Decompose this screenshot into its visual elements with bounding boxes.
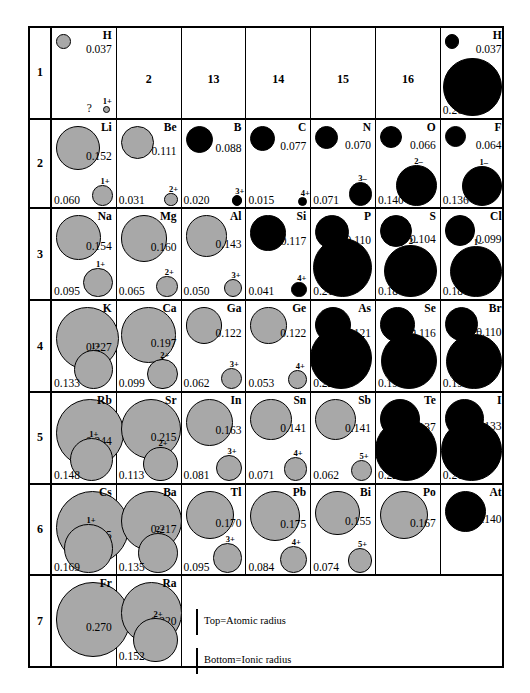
element-cell-Al[interactable]: Al0.1433+0.050 [182, 209, 247, 299]
ionic-charge-label: 5+ [358, 539, 367, 549]
element-cell-Bi[interactable]: Bi0.1555+0.074 [311, 485, 376, 575]
element-cell-Pb[interactable]: Pb0.1754+0.084 [246, 485, 311, 575]
ionic-radius-value: 0.020 [184, 194, 210, 206]
ionic-radius-value: 0.084 [248, 561, 274, 573]
atomic-radius-circle [315, 491, 360, 536]
ionic-charge-label: 2– [409, 236, 418, 246]
element-symbol: Li [101, 121, 112, 133]
element-cell-Sn[interactable]: Sn0.1414+0.071 [246, 393, 311, 483]
element-cell-Be[interactable]: Be0.1112+0.031 [117, 120, 182, 208]
element-cell-Cs[interactable]: Cs0.2651+0.169 [52, 485, 117, 575]
ionic-radius-value: 0.071 [313, 194, 339, 206]
element-cell-Te[interactable]: Te0.1372–0.221 [376, 393, 441, 483]
element-cell-Ra[interactable]: Ra0.2202+0.152 [117, 576, 182, 666]
element-cell-Sb[interactable]: Sb0.1415+0.062 [311, 393, 376, 483]
ionic-charge-label: 3+ [235, 186, 244, 196]
element-cell-F[interactable]: F0.0641–0.136 [441, 120, 506, 208]
element-cell-C[interactable]: C0.0774+0.015 [246, 120, 311, 208]
ionic-radius-value: 0.050 [184, 285, 210, 297]
period-number-5: 5 [30, 393, 52, 483]
ionic-charge-label: 2– [407, 324, 416, 334]
element-symbol: K [103, 302, 112, 314]
atomic-radius-value: 0.143 [216, 238, 242, 250]
ionic-charge-label: 2+ [160, 350, 169, 360]
ionic-charge-label: 1– [472, 325, 481, 335]
element-cell-In[interactable]: In0.1633+0.081 [182, 393, 247, 483]
element-cell-P[interactable]: P0.1103–0.212 [311, 209, 376, 299]
ionic-radius-value: 0.140 [378, 194, 404, 206]
group-header-cell-14: 14 [246, 28, 311, 118]
element-cell-Tl[interactable]: Tl0.1703+0.095 [182, 485, 247, 575]
element-cell-Ba[interactable]: Ba0.2172+0.135 [117, 485, 182, 575]
element-cell-Na[interactable]: Na0.1541+0.095 [52, 209, 117, 299]
ionic-charge-label: 2+ [154, 609, 163, 619]
ionic-charge-label: 4+ [297, 273, 306, 283]
ionic-radius-value: 0.169 [54, 561, 80, 573]
element-cell-Po[interactable]: Po0.167 [376, 485, 441, 575]
element-cell-Ge[interactable]: Ge0.1224+0.053 [246, 301, 311, 391]
atomic-radius-value: 0.163 [216, 424, 242, 436]
element-cell-Si[interactable]: Si0.1174+0.041 [246, 209, 311, 299]
group-header-cell-15: 15 [311, 28, 376, 118]
element-cell-Fr[interactable]: Fr0.270 [52, 576, 117, 666]
element-cell-Cl[interactable]: Cl0.0991–0.181 [441, 209, 506, 299]
element-symbol: I [497, 394, 501, 406]
atomic-radius-circle [56, 34, 71, 49]
ionic-radius-circle [284, 457, 307, 480]
group-header-cell-13: 13 [182, 28, 247, 118]
element-cell-Li[interactable]: Li0.1521+0.060 [52, 120, 117, 208]
atomic-radius-value: 0.155 [345, 515, 371, 527]
element-cell-Mg[interactable]: Mg0.1602+0.065 [117, 209, 182, 299]
element-cell-Ca[interactable]: Ca0.1972+0.099 [117, 301, 182, 391]
ionic-radius-value: 0.198 [378, 377, 404, 389]
element-symbol: F [495, 121, 502, 133]
atomic-radius-value: 0.122 [216, 327, 242, 339]
element-cell-O[interactable]: O0.0662–0.140 [376, 120, 441, 208]
ionic-radius-circle [280, 546, 307, 573]
element-cell-Br[interactable]: Br0.1101–0.195 [441, 301, 506, 391]
atomic-radius-value: 0.141 [345, 422, 371, 434]
ionic-radius-value: 0.071 [248, 469, 274, 481]
element-cell-As[interactable]: As0.1213–0.222 [311, 301, 376, 391]
ionic-charge-label: 3– [358, 173, 367, 183]
element-symbol: Na [98, 210, 112, 222]
ionic-radius-value: 0.208 [443, 104, 469, 116]
period-number-6: 6 [30, 485, 52, 575]
element-symbol: Po [423, 486, 436, 498]
atomic-radius-value: 0.167 [410, 517, 436, 529]
ionic-radius-value: 0.062 [184, 377, 210, 389]
element-cell-Sr[interactable]: Sr0.2152+0.113 [117, 393, 182, 483]
element-cell-H[interactable]: H0.0371+? [52, 28, 117, 118]
element-cell-H[interactable]: H0.0370.208 [441, 28, 506, 118]
ionic-charge-label: 2+ [165, 267, 174, 277]
atomic-radius-value: 0.152 [86, 150, 112, 162]
element-symbol: Cs [99, 486, 112, 498]
atomic-radius-circle [186, 215, 228, 257]
element-cell-K[interactable]: K0.2271+0.133 [52, 301, 117, 391]
period-number-2: 2 [30, 120, 52, 208]
element-cell-Rb[interactable]: Rb0.2441+0.148 [52, 393, 117, 483]
ionic-radius-circle [298, 197, 307, 206]
atomic-radius-value: 0.140 [476, 513, 502, 525]
element-cell-Se[interactable]: Se0.1162–0.198 [376, 301, 441, 391]
atomic-radius-circle [445, 491, 486, 532]
ionic-charge-label: 3– [339, 318, 348, 328]
element-symbol: Ba [163, 486, 176, 498]
atomic-radius-value: 0.037 [476, 43, 502, 55]
ionic-radius-circle [147, 359, 178, 390]
element-cell-At[interactable]: At0.140 [441, 485, 506, 575]
ionic-charge-label: 2+ [169, 184, 178, 194]
ionic-charge-label: 5+ [359, 451, 368, 461]
group-number-14: 14 [246, 72, 310, 87]
ionic-radius-circle [291, 282, 307, 298]
element-cell-B[interactable]: B0.0883+0.020 [182, 120, 247, 208]
element-cell-Ga[interactable]: Ga0.1223+0.062 [182, 301, 247, 391]
atomic-radius-circle [445, 34, 460, 49]
atomic-radius-circle [250, 399, 291, 440]
element-cell-N[interactable]: N0.0703–0.071 [311, 120, 376, 208]
ionic-radius-value: 0.060 [54, 194, 80, 206]
element-cell-S[interactable]: S0.1042–0.184 [376, 209, 441, 299]
atomic-radius-circle [250, 126, 275, 151]
element-cell-I[interactable]: I0.1331–0.216 [441, 393, 506, 483]
ionic-radius-circle [216, 455, 242, 481]
